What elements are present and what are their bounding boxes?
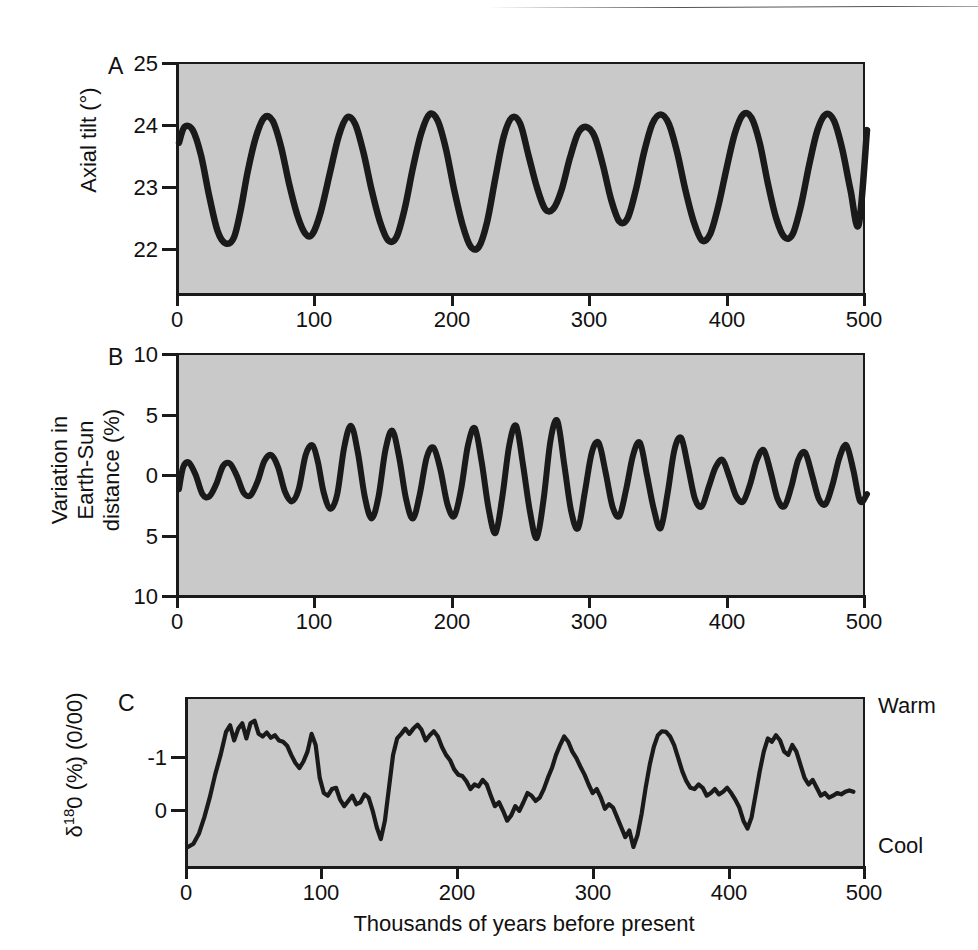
panel-a-x-axis-line <box>176 293 866 296</box>
panel-b-xtick-label-500: 500 <box>834 609 894 635</box>
panel-a-ytick-22 <box>162 248 178 251</box>
panel-a-xtick-label-300: 300 <box>559 307 619 333</box>
panel-b-ytick-label-5-top: 5 <box>102 403 158 429</box>
panel-c-ytick-label-minus1: -1 <box>111 745 167 771</box>
panel-b-xtick-label-100: 100 <box>284 609 344 635</box>
scan-artifact-line <box>0 6 978 8</box>
panel-a-ytick-23 <box>162 186 178 189</box>
panel-a-xtick-label-500: 500 <box>834 307 894 333</box>
panel-a-ytick-label-24: 24 <box>102 113 158 139</box>
panel-c-xtick-0 <box>185 866 188 879</box>
panel-a-xtick-label-400: 400 <box>697 307 757 333</box>
panel-a-ytick-24 <box>162 124 178 127</box>
panel-b-xtick-500 <box>863 595 866 608</box>
panel-b-ytick-5p <box>162 414 178 417</box>
panel-b-ytick-5n <box>162 535 178 538</box>
panel-c-xtick-label-300: 300 <box>563 880 623 906</box>
panel-c-x-axis-line <box>185 866 866 869</box>
panel-b-ytick-10p <box>162 353 178 356</box>
panel-a-y-axis-label: Axial tilt (°) <box>76 30 102 250</box>
panel-a-xtick-200 <box>451 293 454 306</box>
panel-c-xtick-label-100: 100 <box>291 880 351 906</box>
panel-c-xtick-label-200: 200 <box>427 880 487 906</box>
panel-c-letter: C <box>118 690 135 717</box>
panel-b-ytick-label-0: 0 <box>102 463 158 489</box>
panel-a-ytick-25 <box>162 62 178 65</box>
panel-b-xtick-label-200: 200 <box>422 609 482 635</box>
milankovitch-cycles-figure: A Axial tilt (°) 25 24 23 22 0 100 200 3… <box>0 0 978 950</box>
panel-b-ytick-label-10-bottom: 10 <box>102 584 158 610</box>
panel-c-cool-label: Cool <box>878 833 923 859</box>
panel-b-xtick-label-0: 0 <box>147 609 207 635</box>
panel-c-y-axis-label: δ180 (%̦) (0/00) <box>60 650 88 880</box>
panel-a-plot-area <box>177 62 865 295</box>
panel-a-ytick-label-25: 25 <box>102 51 158 77</box>
panel-a-y-axis-line <box>176 62 179 295</box>
panel-b-curve <box>179 355 867 599</box>
panel-b-xtick-300 <box>588 595 591 608</box>
panel-c-warm-label: Warm <box>878 693 936 719</box>
panel-c-xtick-400 <box>728 866 731 879</box>
panel-a-xtick-label-0: 0 <box>147 307 207 333</box>
panel-c-plot-area <box>186 697 865 868</box>
panel-b-xtick-400 <box>726 595 729 608</box>
panel-b-x-axis-line <box>176 595 866 598</box>
panel-a-xtick-400 <box>726 293 729 306</box>
panel-c-xtick-label-0: 0 <box>156 880 216 906</box>
panel-a-ytick-label-22: 22 <box>102 237 158 263</box>
panel-b-y-axis-label-line1: Variation in <box>47 416 72 524</box>
panel-a-xtick-label-100: 100 <box>284 307 344 333</box>
panel-b-xtick-label-300: 300 <box>559 609 619 635</box>
panel-c-xtick-label-500: 500 <box>834 880 894 906</box>
panel-c-xtick-300 <box>592 866 595 879</box>
panel-b-plot-area <box>177 353 865 597</box>
panel-c-y-axis-label-rest: 0 (%̦) (0/00) <box>62 692 87 808</box>
panel-c-ytick-label-0: 0 <box>111 798 167 824</box>
panel-b-ytick-label-5-bottom: 5 <box>102 524 158 550</box>
panel-a-ytick-label-23: 23 <box>102 175 158 201</box>
panel-a-xtick-0 <box>176 293 179 306</box>
panel-b-xtick-100 <box>313 595 316 608</box>
panel-c-curve <box>188 699 867 870</box>
panel-b-xtick-200 <box>451 595 454 608</box>
panel-c-xtick-500 <box>863 866 866 879</box>
x-axis-title: Thousands of years before present <box>289 911 759 937</box>
panel-c-y-axis-line <box>185 697 188 868</box>
panel-a-xtick-label-200: 200 <box>422 307 482 333</box>
panel-b-xtick-0 <box>176 595 179 608</box>
panel-c-y-axis-label-delta: δ <box>62 825 87 837</box>
panel-b-xtick-label-400: 400 <box>697 609 757 635</box>
panel-b-ytick-label-10-top: 10 <box>102 342 158 368</box>
panel-a-curve <box>179 64 867 297</box>
panel-a-xtick-500 <box>863 293 866 306</box>
panel-a-xtick-100 <box>313 293 316 306</box>
panel-c-xtick-label-400: 400 <box>699 880 759 906</box>
panel-c-y-axis-label-superscript: 18 <box>60 809 77 826</box>
panel-c-ytick-minus1 <box>171 756 187 759</box>
panel-c-xtick-200 <box>456 866 459 879</box>
panel-c-ytick-0 <box>171 809 187 812</box>
panel-b-y-axis-label-line2: Earth-Sun <box>73 420 98 519</box>
panel-c-xtick-100 <box>320 866 323 879</box>
panel-b-ytick-0 <box>162 474 178 477</box>
panel-a-xtick-300 <box>588 293 591 306</box>
